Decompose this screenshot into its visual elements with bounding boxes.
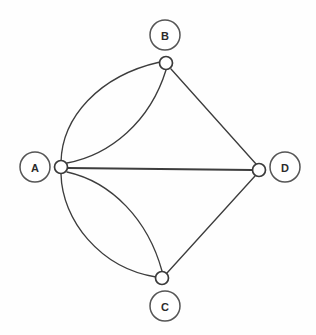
graph-diagram: A B C D <box>0 0 316 335</box>
label-bubble-b[interactable]: B <box>150 20 180 50</box>
vertex-node-b[interactable] <box>160 57 173 70</box>
vertex-node-a[interactable] <box>55 161 68 174</box>
label-text-c: C <box>161 301 169 313</box>
vertex-node-c[interactable] <box>156 272 169 285</box>
label-bubble-d[interactable]: D <box>270 152 300 182</box>
label-bubble-a[interactable]: A <box>20 152 50 182</box>
label-bubble-c[interactable]: C <box>150 291 180 321</box>
label-text-b: B <box>161 30 169 42</box>
label-text-d: D <box>281 162 289 174</box>
label-text-a: A <box>31 162 39 174</box>
graph-canvas: A B C D <box>0 0 316 335</box>
vertex-node-d[interactable] <box>253 164 266 177</box>
